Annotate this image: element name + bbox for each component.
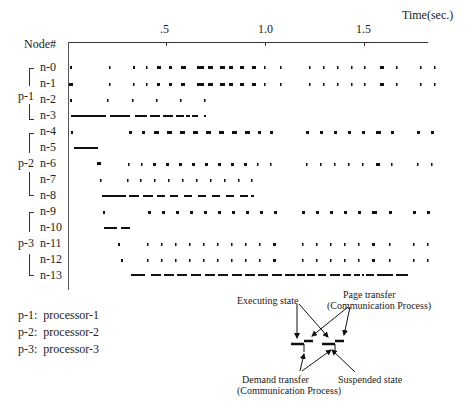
legend-item-p2: p-2: processor-2: [18, 325, 99, 340]
row-n-9: [103, 211, 430, 214]
row-n-3: [71, 115, 206, 117]
legend-key: p-3:: [18, 342, 37, 356]
state-diagram-arrows: [220, 290, 465, 411]
row-n-7: [100, 179, 253, 182]
legend-item-p3: p-3: processor-3: [18, 342, 99, 357]
row-n-13: [131, 274, 408, 276]
row-n-11: [118, 243, 429, 246]
legend-key: p-2:: [18, 325, 37, 339]
row-n-8: [102, 195, 254, 197]
legend-value: processor-3: [43, 342, 99, 356]
row-n-0: [70, 66, 436, 69]
row-n-1: [69, 83, 436, 86]
legend-key: p-1:: [18, 308, 37, 322]
legend-value: processor-2: [43, 325, 99, 339]
timeline-plot: [0, 0, 465, 300]
row-n-6: [97, 162, 433, 166]
legend-value: processor-1: [43, 308, 99, 322]
row-n-5: [74, 147, 98, 149]
legend-item-p1: p-1: processor-1: [18, 308, 99, 323]
row-n-10: [104, 227, 130, 229]
state-annotation: Executing state Page transfer (Communica…: [220, 290, 465, 411]
row-n-12: [121, 259, 429, 262]
row-n-2: [70, 99, 206, 102]
row-n-4: [71, 131, 434, 134]
